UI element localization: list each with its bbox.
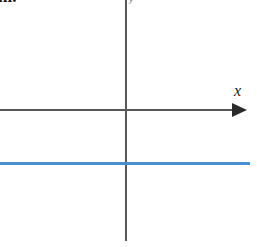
y-axis-line bbox=[125, 0, 127, 241]
caption-fragment-text: m. bbox=[0, 0, 38, 5]
x-axis-label: x bbox=[234, 82, 241, 100]
x-axis-arrow-icon bbox=[232, 103, 247, 117]
x-axis-line bbox=[0, 109, 235, 111]
plot-line-constant-function bbox=[0, 162, 250, 165]
figure-canvas: m. y x bbox=[0, 0, 257, 247]
y-axis-label: y bbox=[128, 0, 144, 4]
